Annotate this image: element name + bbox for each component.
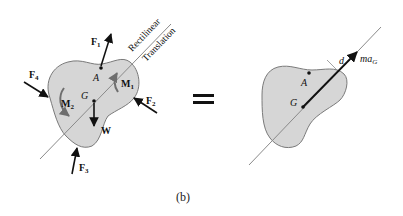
force-f1-arrow xyxy=(101,34,111,66)
point-a-label: A xyxy=(92,72,100,83)
figure-caption: (b) xyxy=(176,190,190,205)
point-a-dot xyxy=(99,66,103,70)
force-f1-label: F1 xyxy=(91,36,101,49)
point-a-dot-right xyxy=(307,71,311,75)
force-f4-label: F4 xyxy=(29,69,39,82)
point-g-label: G xyxy=(81,90,88,101)
force-f4-arrow xyxy=(24,82,48,97)
point-g-label-right: G xyxy=(290,97,297,108)
force-f3-label: F3 xyxy=(79,162,89,175)
free-body-diagram: Rectilinear Translation A G F1 F4 F2 F3 … xyxy=(24,16,177,175)
rigid-body-translation-diagram: Rectilinear Translation A G F1 F4 F2 F3 … xyxy=(0,0,403,216)
dimension-extension-line xyxy=(327,60,337,70)
equals-sign xyxy=(193,94,214,104)
kinetic-diagram: d A G maG xyxy=(249,27,381,165)
point-a-label-right: A xyxy=(300,77,308,88)
inertia-vector-label: maG xyxy=(360,53,377,66)
point-g-dot xyxy=(92,99,96,103)
force-f3-arrow xyxy=(72,148,77,174)
weight-label: W xyxy=(101,125,111,136)
